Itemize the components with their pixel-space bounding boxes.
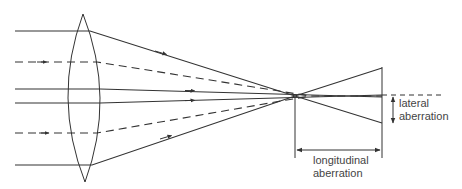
diagram-drawing [0, 0, 462, 189]
label-line: lateral [399, 97, 449, 110]
aberration-diagram: lateral aberration longitudinal aberrati… [0, 0, 462, 189]
biconvex-lens [68, 14, 100, 182]
longitudinal-aberration-label: longitudinal aberration [313, 154, 369, 180]
marginal-rays [15, 31, 382, 165]
label-line: aberration [399, 110, 449, 123]
lateral-aberration-label: lateral aberration [399, 97, 449, 123]
label-line: aberration [313, 167, 369, 180]
label-line: longitudinal [313, 154, 369, 167]
